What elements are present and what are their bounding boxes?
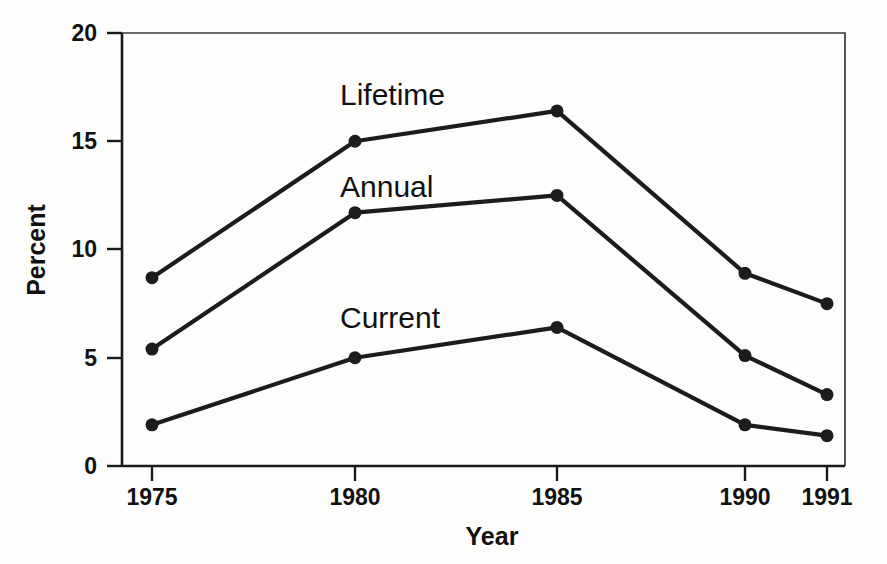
x-tick-label-1975: 1975 (126, 484, 177, 510)
data-point-current-1991[interactable] (821, 429, 834, 442)
series-lifetime (146, 104, 834, 310)
data-point-current-1980[interactable] (349, 351, 362, 364)
data-point-annual-1990[interactable] (739, 349, 752, 362)
data-point-annual-1975[interactable] (146, 343, 159, 356)
data-point-annual-1980[interactable] (349, 206, 362, 219)
series-line-current (152, 327, 827, 435)
series-line-annual (152, 195, 827, 394)
data-point-lifetime-1980[interactable] (349, 135, 362, 148)
data-point-current-1990[interactable] (739, 418, 752, 431)
data-point-current-1975[interactable] (146, 418, 159, 431)
data-point-annual-1991[interactable] (821, 388, 834, 401)
y-axis-ticks (107, 33, 122, 466)
data-point-lifetime-1985[interactable] (551, 104, 564, 117)
chart-figure: 20 15 10 5 0 1975 1980 1985 1990 1991 Ye… (0, 0, 887, 564)
y-tick-label-0: 0 (84, 453, 97, 479)
x-tick-label-1985: 1985 (531, 484, 582, 510)
data-point-lifetime-1991[interactable] (821, 297, 834, 310)
line-chart: 20 15 10 5 0 1975 1980 1985 1990 1991 Ye… (0, 0, 887, 564)
series-label-current: Current (340, 301, 441, 334)
y-tick-label-10: 10 (71, 236, 97, 262)
x-tick-label-1991: 1991 (801, 484, 852, 510)
data-point-lifetime-1990[interactable] (739, 267, 752, 280)
y-axis-title: Percent (22, 203, 50, 295)
data-point-current-1985[interactable] (551, 321, 564, 334)
y-tick-label-5: 5 (84, 345, 97, 371)
series-label-annual: Annual (340, 170, 433, 203)
x-tick-label-1990: 1990 (719, 484, 770, 510)
y-tick-label-20: 20 (71, 20, 97, 46)
data-point-annual-1985[interactable] (551, 189, 564, 202)
data-series-layer (146, 104, 834, 442)
series-line-lifetime (152, 111, 827, 304)
data-point-lifetime-1975[interactable] (146, 271, 159, 284)
series-label-lifetime: Lifetime (340, 78, 445, 111)
y-tick-label-15: 15 (71, 128, 97, 154)
series-current (146, 321, 834, 442)
x-tick-label-1980: 1980 (329, 484, 380, 510)
x-axis-title: Year (466, 522, 519, 550)
x-axis-ticks (152, 466, 827, 481)
series-annual (146, 189, 834, 401)
